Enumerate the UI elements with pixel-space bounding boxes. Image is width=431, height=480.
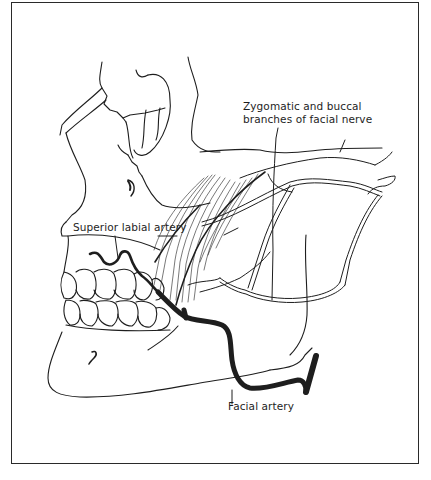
facial-nerve-branches bbox=[188, 152, 395, 303]
label-facial-artery: Facial artery bbox=[228, 400, 294, 413]
superior-labial-artery bbox=[90, 251, 158, 292]
label-facial-nerve-branches: Zygomatic and buccal branches of facial … bbox=[243, 100, 372, 126]
label-nerve-line2: branches of facial nerve bbox=[243, 113, 372, 126]
illustration-drawing bbox=[0, 0, 431, 480]
label-nerve-line1: Zygomatic and buccal bbox=[243, 100, 372, 113]
anatomical-figure: Zygomatic and buccal branches of facial … bbox=[0, 0, 431, 480]
muscle-fibers bbox=[154, 174, 258, 302]
skull-outline bbox=[60, 57, 382, 222]
label-superior-labial-artery: Superior labial artery bbox=[73, 221, 186, 234]
facial-artery bbox=[158, 292, 316, 392]
